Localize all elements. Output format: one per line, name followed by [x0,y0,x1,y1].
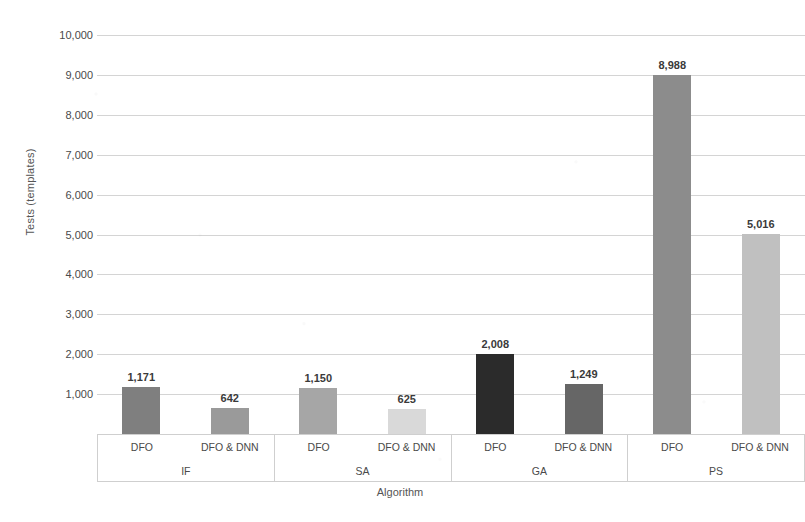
bar-slot: 642 [186,35,275,434]
bar-slot: 8,988 [628,35,717,434]
bar-slot: 2,008 [451,35,540,434]
bar-value-label: 1,171 [127,371,155,383]
bar-slot: 1,150 [274,35,363,434]
bar-value-label: 625 [398,393,416,405]
axis-subcategory-row: DFODFO & DNN [452,435,628,459]
bar[interactable] [211,408,249,434]
axis-group-cell: DFODFO & DNNIF [98,435,275,481]
axis-subcategory-label: DFO [628,435,716,459]
y-axis-tick-label: 9,000 [33,69,93,81]
axis-group-label: IF [98,459,274,482]
bar-value-label: 1,150 [304,372,332,384]
y-axis-tick-label: 5,000 [33,229,93,241]
axis-subcategory-label: DFO [98,435,186,459]
bar-value-label: 642 [221,392,239,404]
y-axis-tick-label: 7,000 [33,149,93,161]
plot-area: 10,0009,0008,0007,0006,0005,0004,0003,00… [97,35,805,434]
axis-group-cell: DFODFO & DNNSA [275,435,452,481]
bar[interactable] [653,75,691,434]
axis-group-cell: DFODFO & DNNGA [452,435,629,481]
category-axis: DFODFO & DNNIFDFODFO & DNNSADFODFO & DNN… [97,434,805,482]
bars-layer: 1,1716421,1506252,0081,2498,9885,016 [97,35,805,434]
axis-subcategory-label: DFO & DNN [186,435,274,459]
bar-value-label: 8,988 [658,59,686,71]
axis-group-cell: DFODFO & DNNPS [628,435,804,481]
bar-value-label: 2,008 [481,338,509,350]
bar-slot: 625 [363,35,452,434]
bar[interactable] [388,409,426,434]
y-axis-tick-label: 1,000 [33,388,93,400]
y-axis-tick-label: 2,000 [33,348,93,360]
axis-group-label: PS [628,459,804,482]
y-axis-tick-label: 8,000 [33,109,93,121]
bar-slot: 1,171 [97,35,186,434]
axis-group-label: GA [452,459,628,482]
axis-subcategory-row: DFODFO & DNN [98,435,274,459]
bar[interactable] [299,388,337,434]
bar-value-label: 1,249 [570,368,598,380]
bar[interactable] [476,354,514,434]
y-axis-tick-label: 3,000 [33,308,93,320]
bar-slot: 5,016 [717,35,805,434]
bar-value-label: 5,016 [747,218,775,230]
y-axis-tick-label: 10,000 [33,29,93,41]
axis-subcategory-label: DFO & DNN [716,435,804,459]
axis-subcategory-label: DFO [452,435,540,459]
bar-slot: 1,249 [540,35,629,434]
bar[interactable] [122,387,160,434]
axis-subcategory-label: DFO & DNN [363,435,451,459]
y-axis-tick-label: 6,000 [33,189,93,201]
bar[interactable] [565,384,603,434]
y-axis-tick-label: 4,000 [33,268,93,280]
x-axis-title: Algorithm [0,486,800,498]
bar[interactable] [742,234,780,434]
axis-subcategory-label: DFO [275,435,363,459]
axis-subcategory-label: DFO & DNN [539,435,627,459]
axis-subcategory-row: DFODFO & DNN [275,435,451,459]
axis-subcategory-row: DFODFO & DNN [628,435,804,459]
axis-group-label: SA [275,459,451,482]
